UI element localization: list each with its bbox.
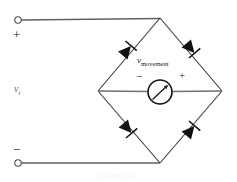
meter-movement [148, 80, 172, 104]
diode-top-left-triangle [118, 42, 136, 60]
diode-top-right [181, 39, 201, 58]
terminal-negative-sign: − [13, 143, 20, 156]
meter-voltage-subscript: movement [141, 60, 168, 67]
meter-plus-sign: + [179, 70, 185, 81]
diode-bottom-right [181, 121, 201, 140]
meter-minus-sign: − [136, 71, 142, 82]
figure-caption: FIGURE 2.62 [98, 173, 136, 179]
circuit-diagram: + − vi vmovement − + FIGURE 2.62 [0, 0, 237, 182]
wire-bridge-arm-top-left [98, 18, 160, 91]
wire-meter-branch-right [172, 91, 222, 92]
diode-bottom-right-triangle [182, 122, 200, 140]
meter-voltage-label: vmovement [137, 56, 168, 67]
input-source-subscript: i [18, 89, 20, 97]
wire-meter-branch-left [98, 91, 148, 92]
input-source-label: vi [14, 84, 20, 97]
diode-bottom-left [118, 119, 138, 138]
wire-top-lead [21, 19, 160, 21]
schematic-canvas [0, 0, 237, 182]
diode-bottom-left-triangle [119, 119, 137, 137]
terminal-positive-sign: + [13, 28, 20, 41]
terminal-negative-node [15, 160, 21, 166]
diode-top-left [117, 41, 137, 60]
wire-bridge-arm-bottom-right [160, 91, 222, 163]
terminal-positive-node [15, 17, 21, 23]
wire-bridge-arm-top-right [160, 18, 222, 91]
